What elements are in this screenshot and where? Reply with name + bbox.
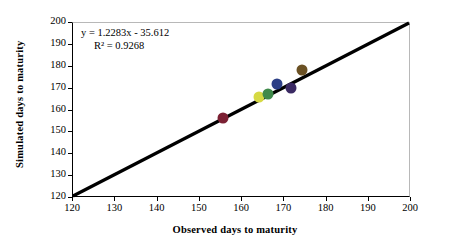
y-axis-label: Simulated days to maturity — [14, 41, 25, 168]
x-tick-mark — [368, 197, 369, 201]
x-tick-mark — [157, 197, 158, 201]
x-tick-mark — [410, 197, 411, 201]
x-tick-label: 180 — [311, 202, 341, 213]
regression-annotation: y = 1.2283x - 35.612 R² = 0.9268 — [79, 27, 169, 52]
y-tick-label: 130 — [38, 168, 66, 179]
regression-equation: y = 1.2283x - 35.612 — [79, 27, 169, 40]
r-squared-value: R² = 0.9268 — [79, 40, 169, 53]
x-tick-label: 120 — [57, 202, 87, 213]
y-tick-label: 200 — [38, 15, 66, 26]
data-point — [271, 79, 282, 90]
y-tick-label: 160 — [38, 103, 66, 114]
y-tick-label: 120 — [38, 190, 66, 201]
x-tick-mark — [326, 197, 327, 201]
x-tick-mark — [283, 197, 284, 201]
x-tick-label: 190 — [353, 202, 383, 213]
data-point — [217, 113, 228, 124]
y-tick-label: 150 — [38, 124, 66, 135]
data-point — [286, 82, 297, 93]
data-point — [263, 88, 274, 99]
x-tick-label: 170 — [268, 202, 298, 213]
x-axis-label: Observed days to maturity — [0, 224, 470, 235]
x-tick-mark — [199, 197, 200, 201]
x-tick-label: 130 — [99, 202, 129, 213]
y-tick-label: 170 — [38, 81, 66, 92]
x-tick-mark — [114, 197, 115, 201]
data-point — [296, 64, 307, 75]
x-tick-label: 140 — [142, 202, 172, 213]
y-tick-label: 180 — [38, 59, 66, 70]
x-tick-mark — [72, 197, 73, 201]
x-tick-mark — [241, 197, 242, 201]
plot-area: y = 1.2283x - 35.612 R² = 0.9268 — [72, 22, 410, 197]
y-tick-label: 140 — [38, 146, 66, 157]
x-tick-label: 160 — [226, 202, 256, 213]
scatter-chart: Simulated days to maturity Observed days… — [0, 0, 470, 245]
x-tick-label: 150 — [184, 202, 214, 213]
y-tick-label: 190 — [38, 37, 66, 48]
x-tick-label: 200 — [395, 202, 425, 213]
